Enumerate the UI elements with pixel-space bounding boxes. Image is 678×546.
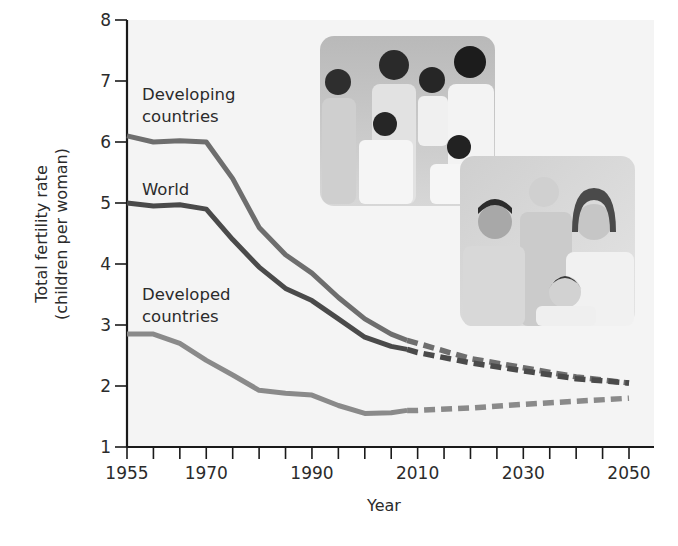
y-tick-label: 7 bbox=[100, 71, 111, 91]
label-developing-line1: Developing bbox=[142, 85, 235, 104]
y-tick-label: 6 bbox=[100, 132, 111, 152]
x-axis-title: Year bbox=[366, 496, 401, 515]
x-axis: 195519701990201020302050 bbox=[105, 447, 654, 483]
y-tick-label: 4 bbox=[100, 254, 111, 274]
y-tick-label: 3 bbox=[100, 315, 111, 335]
label-developed-line2: countries bbox=[142, 307, 219, 326]
y-axis-title-line2: (children per woman) bbox=[52, 148, 71, 320]
y-tick-label: 5 bbox=[100, 193, 111, 213]
y-tick-label: 2 bbox=[100, 376, 111, 396]
y-tick-label: 8 bbox=[100, 10, 111, 30]
developed-family-photo bbox=[460, 156, 635, 326]
y-axis: 12345678 bbox=[100, 10, 127, 457]
label-developed-line1: Developed bbox=[142, 285, 231, 304]
x-tick-label: 1970 bbox=[185, 463, 228, 483]
x-tick-label: 1955 bbox=[105, 463, 148, 483]
label-world: World bbox=[142, 180, 189, 199]
label-developing-line2: countries bbox=[142, 107, 219, 126]
y-tick-label: 1 bbox=[100, 437, 111, 457]
y-axis-title-line1: Total fertility rate bbox=[32, 165, 51, 303]
x-tick-label: 1990 bbox=[290, 463, 333, 483]
fertility-chart: 12345678 195519701990201020302050 Develo… bbox=[0, 0, 678, 546]
x-tick-label: 2010 bbox=[396, 463, 439, 483]
x-tick-label: 2030 bbox=[502, 463, 545, 483]
x-tick-label: 2050 bbox=[607, 463, 650, 483]
